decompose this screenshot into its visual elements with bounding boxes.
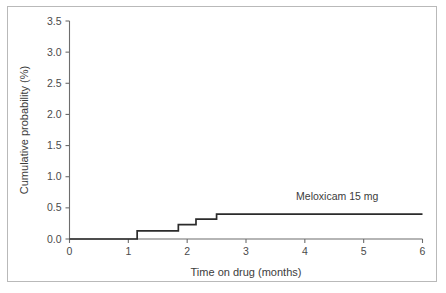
y-tick-label-1.5: 1.5 — [47, 139, 62, 151]
x-tick-label-3: 3 — [243, 245, 249, 257]
y-tick-label-0.5: 0.5 — [47, 201, 62, 213]
x-tick-label-6: 6 — [420, 245, 426, 257]
y-tick-label-3.5: 3.5 — [47, 15, 62, 27]
figure-container: 0.00.51.01.52.02.53.03.5 0123456 Cumulat… — [0, 0, 446, 293]
x-tick-label-0: 0 — [67, 245, 73, 257]
y-tick-label-3.0: 3.0 — [47, 46, 62, 58]
x-tick-labels: 0123456 — [67, 245, 426, 257]
y-tick-label-0.0: 0.0 — [47, 233, 62, 245]
y-axis-group — [66, 21, 70, 239]
series-line-meloxicam-15-mg — [70, 214, 423, 239]
y-axis-title: Cumulative probability (%) — [18, 66, 30, 194]
x-tick-label-1: 1 — [125, 245, 131, 257]
series-annotations: Meloxicam 15 mg — [296, 190, 378, 202]
series-annotation-0: Meloxicam 15 mg — [296, 190, 378, 202]
y-tick-label-2.0: 2.0 — [47, 108, 62, 120]
x-axis-title: Time on drug (months) — [191, 266, 302, 278]
chart-canvas: 0.00.51.01.52.02.53.03.5 0123456 Cumulat… — [0, 0, 446, 293]
y-tick-label-1.0: 1.0 — [47, 170, 62, 182]
x-tick-label-5: 5 — [361, 245, 367, 257]
x-tick-label-4: 4 — [302, 245, 308, 257]
y-tick-labels: 0.00.51.01.52.02.53.03.5 — [47, 15, 62, 245]
y-tick-label-2.5: 2.5 — [47, 77, 62, 89]
x-tick-label-2: 2 — [184, 245, 190, 257]
